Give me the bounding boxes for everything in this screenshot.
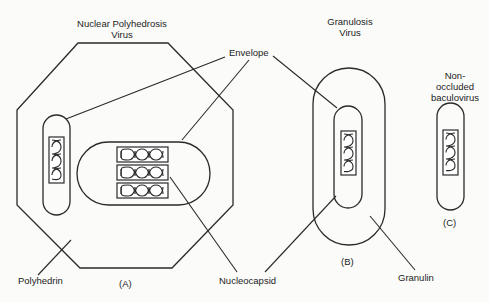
title-gv-line2: Virus <box>315 27 385 38</box>
title-npv-line2: Virus <box>68 29 176 40</box>
title-gv-line1: Granulosis <box>315 16 385 27</box>
label-panel-a: (A) <box>119 278 132 289</box>
label-granulin: Granulin <box>398 272 434 283</box>
leader-envelope-granulosis <box>273 56 337 108</box>
title-granulosis-virus: Granulosis Virus <box>315 16 385 38</box>
title-npv-line1: Nuclear Polyhedrosis <box>68 18 176 29</box>
title-non-occluded-baculovirus: Non- occluded baculovirus <box>420 70 489 103</box>
title-nuclear-polyhedrosis-virus: Nuclear Polyhedrosis Virus <box>68 18 176 40</box>
title-nob-line1: Non- <box>420 70 489 81</box>
leader-granulin <box>370 216 415 270</box>
baculovirus-diagram <box>0 0 489 302</box>
label-panel-c: (C) <box>443 217 456 228</box>
leader-polyhedrin <box>38 240 71 275</box>
title-nob-line3: baculovirus <box>420 92 489 103</box>
label-panel-b: (B) <box>341 256 354 267</box>
nucleocapsid-single <box>49 137 64 183</box>
leader-nucleocapsid-a <box>170 177 237 272</box>
nucleocapsid-bundle <box>117 147 168 198</box>
nucleocapsid-non-occluded <box>443 130 458 175</box>
label-polyhedrin: Polyhedrin <box>18 275 63 286</box>
title-nob-line2: occluded <box>420 81 489 92</box>
nucleocapsid-granulosis <box>341 131 356 175</box>
leader-envelope-single <box>66 57 225 119</box>
label-envelope: Envelope <box>229 47 269 58</box>
label-nucleocapsid: Nucleocapsid <box>219 275 276 286</box>
leader-nucleocapsid-b <box>265 196 336 272</box>
leader-envelope-multiple <box>182 60 249 140</box>
